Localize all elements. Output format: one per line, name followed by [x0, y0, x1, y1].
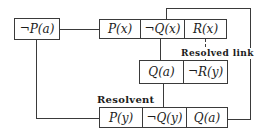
link-notpa-py [36, 40, 99, 118]
clause-box-resolvent: P(y) ¬Q(y) Q(a) [99, 107, 228, 128]
resolvent-label: Resolvent [97, 95, 155, 105]
literal-not-r-y: ¬R(y) [188, 66, 223, 78]
literal-q-a-resolvent: Q(a) [194, 112, 220, 124]
literal-p-x: P(x) [108, 23, 132, 35]
literal-not-q-y: ¬Q(y) [146, 112, 182, 124]
literal-cell: R(x) [185, 20, 226, 38]
literal-cell: P(x) [100, 20, 141, 38]
literal-cell: P(y) [100, 108, 143, 127]
clause-box-middle: Q(a) ¬R(y) [139, 60, 228, 84]
literal-cell: ¬R(y) [184, 61, 227, 83]
resolution-diagram: ¬P(a) P(x) ¬Q(x) R(x) Q(a) ¬R(y) P(y) ¬Q… [0, 0, 262, 135]
literal-not-p-a: ¬P(a) [20, 23, 55, 35]
literal-cell: ¬Q(x) [141, 20, 185, 38]
clause-box-unit: ¬P(a) [14, 18, 60, 40]
literal-r-x: R(x) [193, 23, 218, 35]
literal-not-q-x: ¬Q(x) [144, 23, 180, 35]
literal-p-y: P(y) [109, 112, 133, 124]
resolved-link-label: Resolved link [179, 48, 256, 59]
literal-cell: ¬Q(y) [143, 108, 187, 127]
literal-q-a: Q(a) [148, 66, 174, 78]
literal-cell: Q(a) [187, 108, 227, 127]
clause-box-top: P(x) ¬Q(x) R(x) [99, 19, 227, 39]
literal-cell: Q(a) [140, 61, 184, 83]
